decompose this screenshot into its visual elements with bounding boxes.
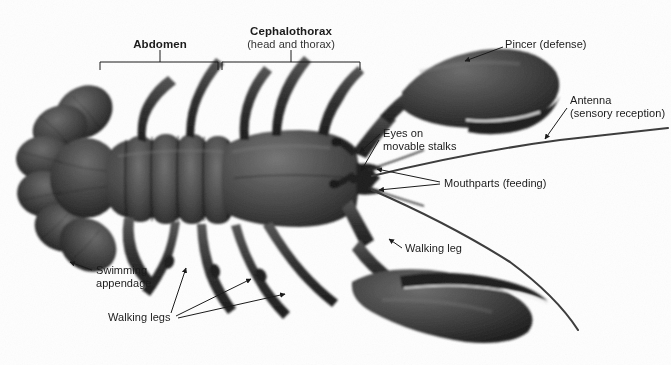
label-pincer: Pincer (defense)	[505, 38, 587, 50]
label-walking-legs: Walking legs	[108, 311, 171, 323]
lobster-anatomy-figure: Abdomen Cephalothorax (head and thorax) …	[0, 0, 671, 365]
label-swimming-line2: appendage	[96, 277, 152, 289]
label-abdomen: Abdomen	[133, 38, 187, 51]
label-cephalothorax: Cephalothorax	[250, 25, 332, 38]
label-eyes-line1: Eyes on	[383, 127, 423, 139]
label-mouthparts: Mouthparts (feeding)	[444, 177, 547, 189]
label-swimming-line1: Swimming	[96, 264, 147, 276]
label-cephalothorax-sub: (head and thorax)	[247, 38, 335, 50]
lobster-photograph	[0, 0, 671, 365]
label-antenna: Antenna	[570, 94, 611, 106]
label-walking-leg: Walking leg	[405, 242, 462, 254]
label-eyes-line2: movable stalks	[383, 140, 456, 152]
label-antenna-sub: (sensory reception)	[570, 107, 665, 119]
